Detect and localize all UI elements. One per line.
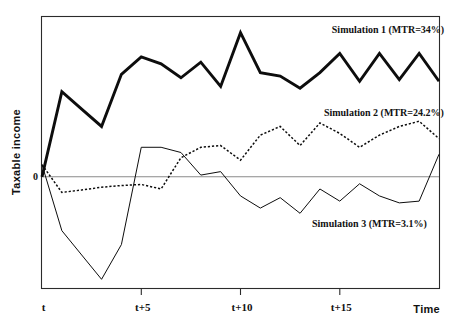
x-tick-label-t: t (42, 301, 46, 313)
series-annotation-simulation-2: Simulation 2 (MTR=24.2%) (324, 107, 444, 119)
y-axis-title-group: Taxable income (10, 109, 22, 195)
x-tick-label-t-plus-15: t+15 (331, 301, 352, 313)
series-line-simulation-3 (42, 147, 439, 279)
series-line-simulation-1 (42, 33, 439, 177)
x-tick-label-t-plus-10: t+10 (232, 301, 253, 313)
y-axis-zero-tick-label: 0 (33, 171, 38, 182)
plot-frame (42, 17, 440, 289)
x-tick-label-t-plus-5: t+5 (135, 301, 151, 313)
chart-figure: Taxable income 0 t t+5 t+10 t+15 Time Si… (0, 0, 462, 325)
series-annotation-simulation-3: Simulation 3 (MTR=3.1%) (312, 218, 427, 230)
series-line-simulation-2 (42, 121, 439, 192)
taxable-income-line-chart: Taxable income 0 t t+5 t+10 t+15 Time Si… (0, 0, 462, 325)
y-axis-title: Taxable income (10, 109, 22, 195)
x-axis-title: Time (413, 303, 440, 315)
series-lines (42, 33, 439, 280)
x-axis-tick-labels: t t+5 t+10 t+15 (42, 301, 353, 313)
series-annotation-simulation-1: Simulation 1 (MTR=34%) (332, 24, 444, 36)
